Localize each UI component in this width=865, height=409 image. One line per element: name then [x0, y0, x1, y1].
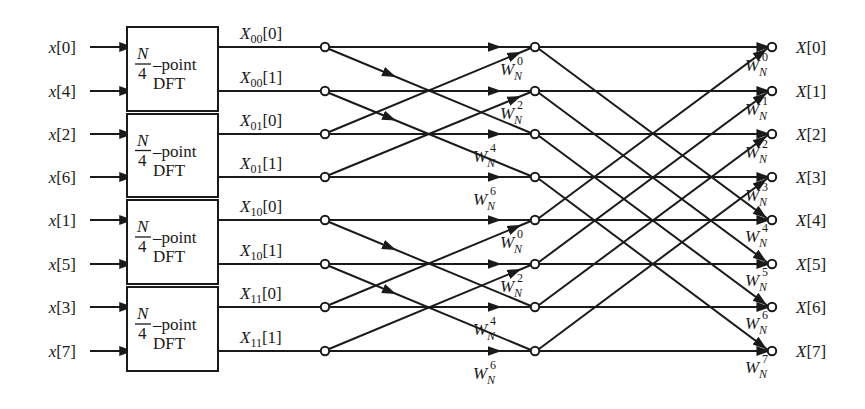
- arrow-head-icon: [513, 99, 515, 100]
- intermediate-label-X11-1: X11[1]: [239, 328, 282, 350]
- twiddle-stage2-W1: W1N: [745, 94, 768, 123]
- stage1-input-node-6: [321, 303, 329, 311]
- output-label-X1: X[1]: [795, 82, 826, 101]
- twiddle-stage1-W0: W0N: [500, 227, 523, 256]
- twiddle-stage2-W7: W7N: [745, 352, 768, 381]
- stage1-input-node-3: [321, 173, 329, 181]
- output-label-X3: X[3]: [795, 168, 826, 187]
- svg-text:0: 0: [517, 227, 523, 241]
- intermediate-label-X00-1: X00[1]: [239, 68, 282, 90]
- output-node-2: [768, 130, 776, 138]
- arrow-head-icon: [513, 55, 515, 56]
- arrow-head-icon: [760, 344, 762, 345]
- stage2-input-node-2: [531, 130, 539, 138]
- svg-text:N: N: [486, 199, 496, 213]
- svg-text:4: 4: [762, 221, 768, 235]
- twiddle-stage1-W4: W4N: [473, 141, 496, 170]
- output-label-X7: X[7]: [795, 342, 826, 361]
- svg-text:1: 1: [762, 94, 768, 108]
- svg-text:6: 6: [490, 184, 496, 198]
- svg-text:DFT: DFT: [153, 161, 186, 180]
- arrow-head-icon: [760, 183, 762, 184]
- svg-text:N: N: [758, 195, 768, 209]
- twiddle-stage1-W2: W2N: [500, 271, 523, 300]
- twiddle-stage2-W5: W5N: [745, 265, 768, 294]
- twiddle-stage1-W6: W6N: [473, 358, 496, 387]
- input-label-x6: x[6]: [48, 168, 76, 187]
- svg-text:N: N: [758, 152, 768, 166]
- intermediate-label-X11-0: X11[0]: [239, 284, 282, 306]
- svg-text:–point: –point: [152, 228, 197, 247]
- twiddle-stage1-W4: W4N: [473, 314, 496, 343]
- arrow-head-icon: [760, 97, 762, 98]
- svg-text:N: N: [136, 44, 150, 63]
- svg-text:4: 4: [490, 314, 496, 328]
- intermediate-label-X00-0: X00[0]: [239, 24, 282, 46]
- stage2-input-node-4: [531, 216, 539, 224]
- arrow-head-icon: [760, 213, 762, 214]
- svg-text:N: N: [513, 69, 523, 83]
- twiddle-stage1-W6: W6N: [473, 184, 496, 213]
- svg-text:2: 2: [517, 98, 523, 112]
- arrow-head-icon: [760, 140, 762, 141]
- svg-text:DFT: DFT: [153, 334, 186, 353]
- twiddle-stage2-W0: W0N: [745, 50, 768, 79]
- stage2-input-node-1: [531, 87, 539, 95]
- input-label-x1: x[1]: [48, 211, 76, 230]
- output-label-X5: X[5]: [795, 255, 826, 274]
- output-label-X4: X[4]: [795, 211, 826, 230]
- output-label-X0: X[0]: [795, 38, 826, 57]
- fft-flow-graph: x[0]x[4]x[2]x[6]x[1]x[5]x[3]x[7]N4–point…: [0, 0, 865, 409]
- stage2-input-node-7: [531, 347, 539, 355]
- twiddle-stage2-W2: W2N: [745, 137, 768, 166]
- svg-text:N: N: [758, 323, 768, 337]
- stage1-input-node-4: [321, 216, 329, 224]
- svg-text:6: 6: [490, 358, 496, 372]
- svg-text:N: N: [513, 113, 523, 127]
- svg-text:N: N: [758, 236, 768, 250]
- svg-text:5: 5: [762, 265, 768, 279]
- output-label-X6: X[6]: [795, 298, 826, 317]
- arrow-head-icon: [388, 290, 390, 291]
- output-node-5: [768, 260, 776, 268]
- svg-text:N: N: [513, 286, 523, 300]
- output-node-1: [768, 87, 776, 95]
- input-label-x4: x[4]: [48, 82, 76, 101]
- twiddle-stage2-W3: W3N: [745, 180, 768, 209]
- input-label-x7: x[7]: [48, 342, 76, 361]
- arrow-head-icon: [388, 73, 390, 74]
- svg-text:N: N: [758, 65, 768, 79]
- stage1-input-node-0: [321, 43, 329, 51]
- svg-text:N: N: [486, 329, 496, 343]
- output-node-6: [768, 303, 776, 311]
- svg-text:–point: –point: [152, 55, 197, 74]
- output-node-7: [768, 347, 776, 355]
- stage1-input-node-1: [321, 87, 329, 95]
- arrow-head-icon: [388, 117, 390, 118]
- output-node-3: [768, 173, 776, 181]
- svg-text:N: N: [136, 304, 150, 323]
- svg-text:4: 4: [138, 64, 147, 83]
- svg-text:N: N: [486, 373, 496, 387]
- intermediate-label-X01-1: X01[1]: [239, 154, 282, 176]
- input-label-x3: x[3]: [48, 298, 76, 317]
- output-node-4: [768, 216, 776, 224]
- svg-text:3: 3: [762, 180, 768, 194]
- svg-text:N: N: [486, 156, 496, 170]
- intermediate-label-X10-1: X10[1]: [239, 241, 282, 263]
- svg-text:4: 4: [138, 324, 147, 343]
- output-label-X2: X[2]: [795, 125, 826, 144]
- svg-text:–point: –point: [152, 142, 197, 161]
- svg-text:4: 4: [490, 141, 496, 155]
- arrow-head-icon: [513, 228, 515, 229]
- twiddle-stage2-W4: W4N: [745, 221, 768, 250]
- svg-text:N: N: [136, 217, 150, 236]
- svg-text:6: 6: [762, 308, 768, 322]
- svg-text:DFT: DFT: [153, 247, 186, 266]
- svg-text:N: N: [513, 242, 523, 256]
- svg-text:N: N: [758, 280, 768, 294]
- svg-text:N: N: [136, 131, 150, 150]
- twiddle-stage2-W6: W6N: [745, 308, 768, 337]
- svg-text:4: 4: [138, 237, 147, 256]
- svg-text:7: 7: [762, 352, 768, 366]
